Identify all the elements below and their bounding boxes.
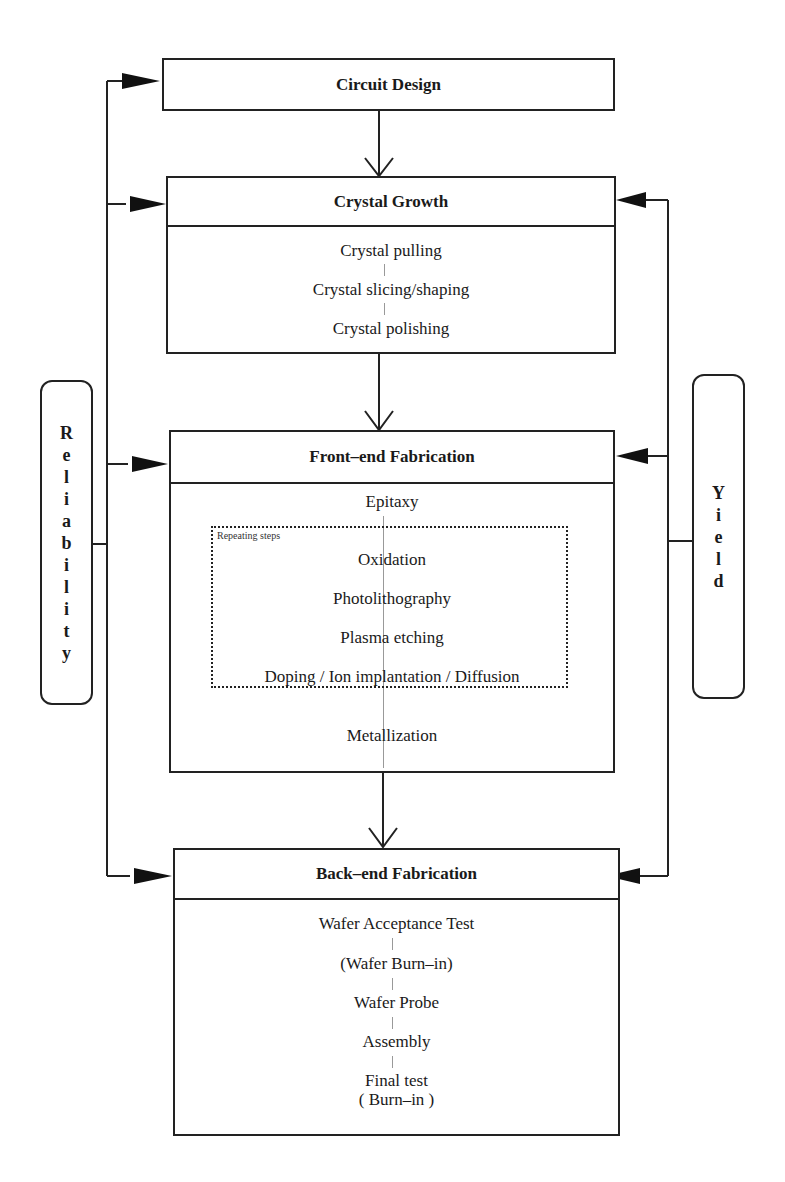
arrow-into-frontend-left <box>132 456 168 472</box>
step-item: Photolithography <box>171 589 613 609</box>
letter: R <box>60 422 73 444</box>
stage-circuit-design: Circuit Design <box>162 58 615 111</box>
yield-feedback-lines <box>640 200 694 876</box>
arrow-into-crystal-growth-left <box>130 196 166 212</box>
letter: e <box>63 444 71 466</box>
arrow-into-circuit-design <box>122 73 160 89</box>
stage-title: Crystal Growth <box>168 178 614 227</box>
step-item: ( Burn–in ) <box>175 1090 618 1110</box>
step-item: Assembly <box>175 1032 618 1052</box>
step-item: Oxidation <box>171 550 613 570</box>
letter: i <box>64 488 69 510</box>
letter: t <box>64 620 70 642</box>
flow-arrow-growth-to-frontend <box>365 353 393 430</box>
step-item: Doping / Ion implantation / Diffusion <box>171 667 613 687</box>
letter: b <box>61 532 71 554</box>
step-connector <box>392 978 393 990</box>
letter: l <box>716 548 721 570</box>
step-item: Metallization <box>171 726 613 746</box>
arrow-into-backend-left <box>134 868 172 884</box>
step-item: Crystal polishing <box>168 319 614 339</box>
step-item: Final test <box>175 1071 618 1091</box>
step-item: Crystal pulling <box>168 241 614 261</box>
reliability-feedback-label: R e l i a b i l i t y <box>40 380 93 705</box>
letter: d <box>713 570 723 592</box>
stage-title: Circuit Design <box>164 60 613 109</box>
step-item: Wafer Acceptance Test <box>175 914 618 934</box>
arrow-into-crystal-growth-right <box>616 192 646 208</box>
repeating-steps-label: Repeating steps <box>217 530 280 541</box>
letter: i <box>716 504 721 526</box>
step-connector <box>392 1056 393 1068</box>
stage-title: Front–end Fabrication <box>171 432 613 484</box>
yield-feedback-label: Y i e l d <box>692 374 745 699</box>
step-connector <box>392 1017 393 1029</box>
step-connector <box>384 303 385 315</box>
step-item: Crystal slicing/shaping <box>168 280 614 300</box>
flow-arrow-design-to-growth <box>365 110 393 176</box>
letter: y <box>62 642 71 664</box>
stage-title: Back–end Fabrication <box>175 850 618 900</box>
letter: e <box>715 526 723 548</box>
step-item: (Wafer Burn–in) <box>175 954 618 974</box>
step-item: Epitaxy <box>171 492 613 512</box>
stage-back-end-fabrication: Back–end Fabrication Wafer Acceptance Te… <box>173 848 620 1136</box>
stage-front-end-fabrication: Front–end Fabrication Epitaxy Repeating … <box>169 430 615 773</box>
reliability-feedback-lines <box>92 81 130 876</box>
letter: Y <box>712 482 725 504</box>
letter: i <box>64 554 69 576</box>
stage-crystal-growth: Crystal Growth Crystal pulling Crystal s… <box>166 176 616 354</box>
step-item: Plasma etching <box>171 628 613 648</box>
letter: i <box>64 598 69 620</box>
flow-arrow-frontend-to-backend <box>369 772 397 847</box>
step-connector <box>392 938 393 950</box>
step-connector <box>384 264 385 276</box>
letter: a <box>62 510 71 532</box>
letter: l <box>64 576 69 598</box>
letter: l <box>64 466 69 488</box>
arrow-into-frontend-right <box>616 448 648 464</box>
step-item: Wafer Probe <box>175 993 618 1013</box>
